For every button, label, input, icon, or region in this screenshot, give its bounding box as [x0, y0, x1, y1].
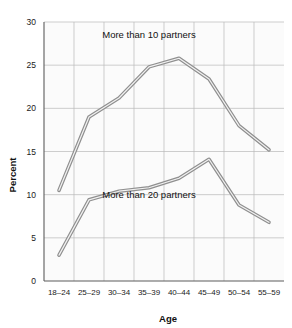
- y-tick-label: 25: [27, 60, 37, 70]
- x-tick-label: 18–24: [48, 288, 71, 297]
- x-tick-label: 25–29: [78, 288, 101, 297]
- y-tick-label: 20: [27, 103, 37, 113]
- y-tick-label: 30: [27, 17, 37, 27]
- x-tick-label: 40–44: [168, 288, 191, 297]
- y-tick-label: 15: [27, 147, 37, 157]
- series-annotation-2: More than 20 partners: [102, 189, 196, 200]
- x-tick-label: 45–49: [198, 288, 221, 297]
- y-tick-label: 10: [27, 190, 37, 200]
- line-chart: 051015202530 18–2425–2930–3435–3940–4445…: [0, 0, 292, 328]
- series-annotation-1: More than 10 partners: [102, 29, 196, 40]
- x-axis-title: Age: [159, 313, 177, 324]
- y-tick-label: 5: [31, 233, 36, 243]
- y-axis-title: Percent: [7, 157, 18, 193]
- x-tick-labels: 18–2425–2930–3435–3940–4445–4950–5455–59: [48, 288, 281, 297]
- x-tick-label: 55–59: [258, 288, 281, 297]
- y-tick-labels: 051015202530: [27, 17, 37, 286]
- x-tick-label: 50–54: [228, 288, 251, 297]
- y-tick-label: 0: [31, 276, 36, 286]
- x-tick-label: 35–39: [138, 288, 161, 297]
- chart-container: 051015202530 18–2425–2930–3435–3940–4445…: [0, 0, 292, 328]
- x-tick-label: 30–34: [108, 288, 131, 297]
